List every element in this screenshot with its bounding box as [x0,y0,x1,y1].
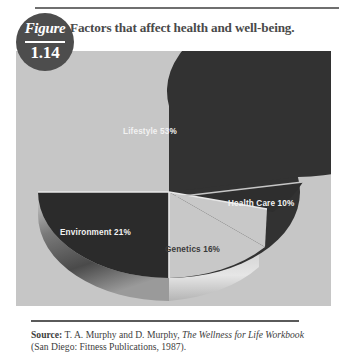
figure-number-badge: Figure 1.14 [16,13,74,71]
chart-panel: Lifestyle 53% Health Care 10% Genetics 1… [16,51,331,306]
figure-badge-number: 1.14 [16,43,74,63]
source-authors: T. A. Murphy and D. Murphy, [62,329,182,340]
pie-label-health-care: Health Care 10% [228,199,294,208]
figure-title: Factors that affect health and well-bein… [70,20,332,36]
pie-slice-lifestyle-top [167,51,331,192]
pie-chart: Lifestyle 53% Health Care 10% Genetics 1… [16,51,331,306]
pie-label-lifestyle: Lifestyle 53% [123,127,177,136]
source-publication: (San Diego: Fitness Publications, 1987). [31,341,186,352]
figure-badge-word: Figure [16,20,74,37]
pie-chart-svg [16,51,331,306]
source-work-title: The Wellness for Life Workbook [182,329,304,340]
pie-label-genetics: Genetics 16% [165,245,220,254]
source-citation: Source: T. A. Murphy and D. Murphy, The … [31,329,307,354]
source-divider [31,320,299,322]
source-label: Source: [31,329,62,340]
pie-label-environment: Environment 21% [60,228,131,237]
figure-card: Factors that affect health and well-bein… [8,7,339,357]
figure-container: Factors that affect health and well-bein… [0,0,347,364]
